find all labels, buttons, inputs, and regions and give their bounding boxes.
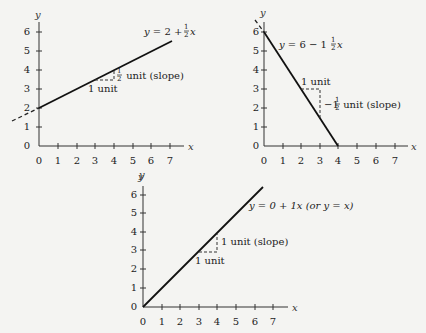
svg-text:1: 1 [184,23,188,31]
chart-2-xtick-6: 6 [373,155,379,166]
chart-2-ytick-1: 1 [253,121,259,132]
chart-2-xtick-3: 3 [317,155,323,166]
chart-1-ytick-0: 0 [24,140,30,151]
chart-3-ytick-1: 1 [131,282,137,293]
svg-text:2: 2 [331,44,335,52]
chart-3-xtick-7: 7 [270,316,276,327]
chart-1-ytick-2: 2 [24,102,30,113]
chart-1-rise-fraction-num: 1 [117,67,121,75]
svg-text:x: x [337,39,343,50]
chart-3-equation: y = 0 + 1x (or y = x) [248,200,354,211]
svg-text:1: 1 [331,36,335,44]
chart-2-ytick-3: 3 [253,83,259,94]
svg-text:y = 2 +: y = 2 + [143,26,186,37]
svg-text:x: x [190,26,196,37]
svg-text:2: 2 [184,31,188,39]
chart-1-run-label: 1 unit [88,83,118,94]
chart-3-xtick-2: 2 [177,316,183,327]
chart-3-ytick-6: 6 [131,189,137,200]
chart-2-xtick-5: 5 [354,155,360,166]
chart-1-xtick-7: 7 [167,155,173,166]
chart-1-rise-fraction-den: 2 [117,75,121,83]
chart-1-xtick-6: 6 [148,155,154,166]
chart-3: y x 0 1 2 3 4 5 6 0 1 2 3 4 5 6 7 1 unit… [131,171,354,327]
chart-2-ytick-4: 4 [253,64,259,75]
chart-2-xtick-4: 4 [335,155,341,166]
chart-3-ytick-3: 3 [131,244,137,255]
chart-1-xtick-4: 4 [111,155,117,166]
chart-1-rise-label: unit (slope) [123,70,184,81]
chart-2-xtick-7: 7 [392,155,398,166]
chart-3-ytick-4: 4 [131,226,137,237]
chart-3-ytick-2: 2 [131,263,137,274]
svg-text:unit (slope): unit (slope) [340,99,401,110]
chart-2-ytick-0: 0 [253,140,259,151]
chart-2-ytick-2: 2 [253,102,259,113]
chart-3-run-label: 1 unit [195,255,225,266]
chart-1-xtick-5: 5 [130,155,136,166]
chart-1-equation: y = 2 + 1 2 x [143,23,196,39]
chart-2-xtick-2: 2 [298,155,304,166]
chart-1-ytick-4: 4 [24,64,30,75]
chart-2-y-axis-label: y [259,7,266,18]
chart-2-ytick-6: 6 [253,26,259,37]
chart-2-run-label: 1 unit [301,76,331,87]
chart-3-xtick-1: 1 [159,316,165,327]
chart-1: y x 0 1 2 3 4 5 6 0 1 2 3 4 5 6 7 y [12,9,196,180]
chart-3-xtick-5: 5 [233,316,239,327]
chart-2-xtick-0: 0 [261,155,267,166]
chart-2: y x 0 1 2 3 4 5 6 0 1 2 3 4 5 6 7 1 unit [253,7,417,166]
figure-canvas: y x 0 1 2 3 4 5 6 0 1 2 3 4 5 6 7 y [0,0,426,333]
chart-3-xtick-0: 0 [140,316,146,327]
chart-3-ytick-5: 5 [131,207,137,218]
chart-2-xtick-1: 1 [280,155,286,166]
chart-1-ytick-1: 1 [24,121,30,132]
chart-1-ytick-6: 6 [24,26,30,37]
chart-1-xtick-0: 0 [36,155,42,166]
chart-3-y-axis-label: y [137,171,144,182]
chart-1-y-axis-label: y [34,9,41,20]
chart-3-x-axis-label: x [292,302,298,313]
chart-1-ytick-5: 5 [24,45,30,56]
chart-3-rise-label: 1 unit (slope) [221,236,288,247]
chart-3-xtick-3: 3 [196,316,202,327]
chart-1-x-axis-label: x [188,141,194,152]
chart-3-ytick-0: 0 [131,301,137,312]
chart-2-x-axis-label: x [411,141,417,152]
chart-3-xtick-4: 4 [214,316,220,327]
svg-text:y = 6 − 1: y = 6 − 1 [278,39,327,50]
chart-2-rise-label: −1 1 2 unit (slope) [324,96,401,112]
svg-text:2: 2 [335,104,339,112]
chart-2-ytick-5: 5 [253,45,259,56]
chart-2-equation: y = 6 − 1 1 2 x [278,36,343,52]
svg-text:1: 1 [335,96,339,104]
chart-3-line [143,187,263,307]
chart-3-xtick-6: 6 [252,316,258,327]
chart-1-xtick-1: 1 [55,155,61,166]
chart-1-xtick-2: 2 [74,155,80,166]
chart-1-xtick-3: 3 [92,155,98,166]
chart-1-ytick-3: 3 [24,83,30,94]
